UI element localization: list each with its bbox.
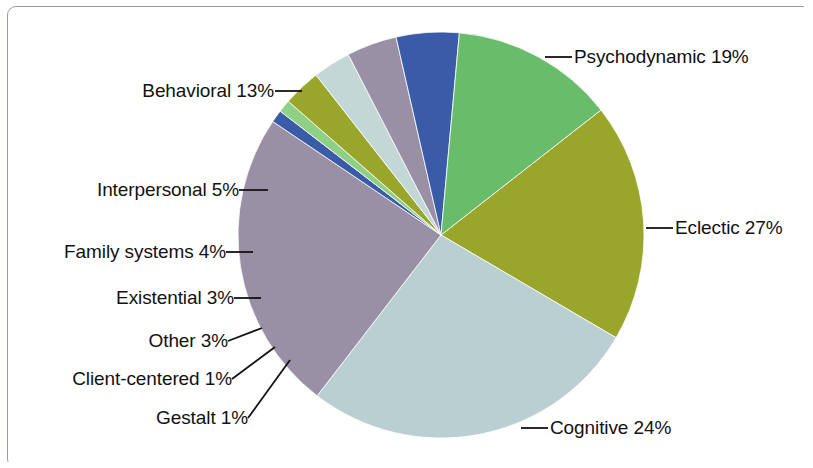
slice-label-family-systems: Family systems 4%	[64, 241, 226, 263]
leader-line-client-centered	[232, 347, 275, 379]
slice-label-other: Other 3%	[149, 330, 228, 352]
pie-chart-figure: Psychodynamic 19% Eclectic 27% Cognitive…	[0, 0, 813, 468]
slice-label-interpersonal: Interpersonal 5%	[97, 179, 239, 201]
slice-label-eclectic: Eclectic 27%	[675, 217, 783, 239]
pie-slices-group	[238, 32, 644, 438]
frame-right-mask	[804, 0, 813, 468]
leader-line-other	[228, 328, 262, 341]
slice-label-psychodynamic: Psychodynamic 19%	[574, 46, 749, 68]
frame-bottom-mask	[0, 462, 813, 468]
leader-line-gestalt	[248, 360, 290, 418]
slice-label-existential: Existential 3%	[116, 287, 234, 309]
slice-label-cognitive: Cognitive 24%	[550, 417, 671, 439]
slice-label-gestalt: Gestalt 1%	[156, 407, 248, 429]
slice-label-behavioral: Behavioral 13%	[142, 80, 274, 102]
slice-label-client-centered: Client-centered 1%	[72, 368, 232, 390]
